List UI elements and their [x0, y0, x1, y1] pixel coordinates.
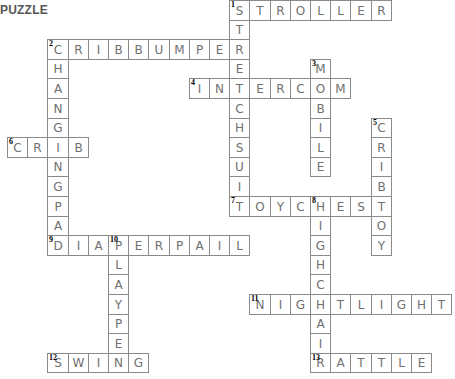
crossword-cell[interactable]: U — [229, 157, 250, 177]
crossword-cell[interactable]: C — [229, 98, 250, 119]
crossword-cell[interactable]: 2C — [47, 39, 69, 60]
crossword-cell[interactable]: R — [148, 235, 170, 256]
crossword-cell[interactable]: R — [229, 39, 250, 60]
crossword-cell[interactable]: I — [88, 39, 109, 60]
crossword-cell[interactable]: O — [310, 78, 331, 99]
crossword-cell[interactable]: R — [270, 78, 291, 99]
crossword-cell[interactable]: I — [310, 333, 331, 354]
crossword-cell[interactable]: B — [310, 98, 331, 119]
crossword-cell[interactable]: 4I — [189, 78, 210, 99]
crossword-cell[interactable]: I — [47, 137, 69, 158]
crossword-cell[interactable]: C — [290, 78, 311, 99]
crossword-cell[interactable]: 1S — [229, 0, 250, 21]
crossword-cell[interactable]: B — [68, 137, 89, 158]
crossword-cell[interactable]: U — [148, 39, 170, 60]
crossword-cell[interactable]: E — [108, 333, 129, 354]
crossword-cell[interactable]: T — [350, 353, 372, 373]
crossword-cell[interactable]: E — [310, 157, 331, 177]
crossword-cell[interactable]: 11N — [249, 294, 271, 315]
crossword-cell[interactable]: 12S — [47, 353, 69, 373]
crossword-cell[interactable]: 7T — [229, 196, 250, 217]
crossword-cell[interactable]: E — [350, 0, 372, 21]
crossword-cell[interactable]: L — [310, 137, 331, 158]
crossword-cell[interactable]: I — [310, 216, 331, 236]
crossword-cell[interactable]: 13R — [310, 353, 331, 373]
crossword-cell[interactable]: T — [431, 294, 452, 315]
crossword-cell[interactable]: T — [229, 20, 250, 40]
crossword-cell[interactable]: N — [47, 98, 69, 119]
crossword-cell[interactable]: A — [108, 274, 129, 295]
crossword-cell[interactable]: E — [209, 39, 230, 60]
crossword-cell[interactable]: I — [310, 118, 331, 138]
crossword-cell[interactable]: 3M — [310, 59, 331, 79]
crossword-cell[interactable]: P — [47, 196, 69, 217]
crossword-cell[interactable]: 8H — [310, 196, 331, 217]
crossword-cell[interactable]: S — [229, 137, 250, 158]
crossword-cell[interactable]: C — [290, 196, 311, 217]
crossword-cell[interactable]: H — [47, 59, 69, 79]
crossword-cell[interactable]: A — [310, 314, 331, 334]
crossword-cell[interactable]: T — [229, 78, 250, 99]
crossword-cell[interactable]: 9D — [47, 235, 69, 256]
crossword-cell[interactable]: G — [47, 118, 69, 138]
crossword-cell[interactable]: I — [229, 176, 250, 197]
crossword-cell[interactable]: I — [68, 235, 89, 256]
crossword-cell[interactable]: G — [391, 294, 412, 315]
crossword-cell[interactable]: B — [128, 39, 149, 60]
crossword-cell[interactable]: R — [27, 137, 48, 158]
crossword-cell[interactable]: 5C — [371, 118, 392, 138]
crossword-cell[interactable]: L — [330, 0, 351, 21]
crossword-cell[interactable]: H — [310, 294, 331, 315]
crossword-cell[interactable]: I — [209, 235, 230, 256]
crossword-cell[interactable]: E — [128, 235, 149, 256]
crossword-cell[interactable]: A — [88, 235, 109, 256]
crossword-cell[interactable]: E — [229, 59, 250, 79]
crossword-cell[interactable]: G — [290, 294, 311, 315]
crossword-cell[interactable]: G — [128, 353, 149, 373]
crossword-cell[interactable]: A — [330, 353, 351, 373]
crossword-cell[interactable]: R — [270, 0, 291, 21]
crossword-cell[interactable]: L — [108, 255, 129, 275]
crossword-cell[interactable]: M — [330, 78, 351, 99]
crossword-cell[interactable]: T — [330, 294, 351, 315]
crossword-cell[interactable]: I — [371, 157, 392, 177]
crossword-cell[interactable]: I — [270, 294, 291, 315]
crossword-cell[interactable]: G — [47, 176, 69, 197]
crossword-cell[interactable]: S — [350, 196, 372, 217]
crossword-cell[interactable]: W — [68, 353, 89, 373]
crossword-cell[interactable]: L — [391, 353, 412, 373]
crossword-cell[interactable]: I — [88, 353, 109, 373]
crossword-cell[interactable]: B — [108, 39, 129, 60]
crossword-cell[interactable]: T — [371, 196, 392, 217]
crossword-cell[interactable]: 10P — [108, 235, 129, 256]
crossword-cell[interactable]: R — [68, 39, 89, 60]
crossword-cell[interactable]: M — [169, 39, 190, 60]
crossword-cell[interactable]: O — [290, 0, 311, 21]
crossword-cell[interactable]: H — [411, 294, 432, 315]
crossword-cell[interactable]: P — [169, 235, 190, 256]
crossword-cell[interactable]: L — [350, 294, 372, 315]
crossword-cell[interactable]: I — [371, 294, 392, 315]
crossword-cell[interactable]: N — [209, 78, 230, 99]
crossword-cell[interactable]: Y — [371, 235, 392, 256]
crossword-cell[interactable]: 6C — [7, 137, 28, 158]
crossword-cell[interactable]: R — [371, 0, 392, 21]
crossword-cell[interactable]: O — [371, 216, 392, 236]
crossword-cell[interactable]: L — [229, 235, 250, 256]
crossword-cell[interactable]: E — [249, 78, 271, 99]
crossword-cell[interactable]: O — [249, 196, 271, 217]
crossword-cell[interactable]: E — [330, 196, 351, 217]
crossword-cell[interactable]: B — [371, 176, 392, 197]
crossword-cell[interactable]: P — [189, 39, 210, 60]
crossword-cell[interactable]: H — [310, 255, 331, 275]
crossword-cell[interactable]: E — [411, 353, 432, 373]
crossword-cell[interactable]: C — [310, 274, 331, 295]
crossword-cell[interactable]: T — [249, 0, 271, 21]
crossword-cell[interactable]: A — [47, 78, 69, 99]
crossword-cell[interactable]: Y — [108, 294, 129, 315]
crossword-cell[interactable]: G — [310, 235, 331, 256]
crossword-cell[interactable]: H — [229, 118, 250, 138]
crossword-cell[interactable]: A — [189, 235, 210, 256]
crossword-cell[interactable]: R — [371, 137, 392, 158]
crossword-cell[interactable]: Y — [270, 196, 291, 217]
